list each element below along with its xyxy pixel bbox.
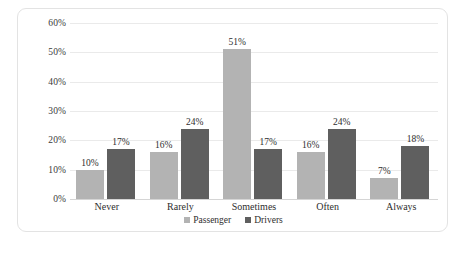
bar-drivers-never[interactable]: 17% (107, 149, 135, 199)
y-axis-tick-label: 30% (20, 106, 66, 116)
y-axis-tick-label: 40% (20, 77, 66, 87)
y-axis-tick-label: 50% (20, 47, 66, 57)
chart-legend: PassengerDrivers (18, 215, 449, 225)
bars-layer: 10%17%16%24%51%17%16%24%7%18% (70, 23, 438, 199)
legend-item-drivers[interactable]: Drivers (245, 215, 283, 225)
bar-passenger-often[interactable]: 16% (297, 152, 325, 199)
legend-swatch-icon (184, 217, 190, 223)
y-axis-tick-label: 20% (20, 135, 66, 145)
bar-value-label: 17% (112, 137, 129, 147)
bar-value-label: 24% (186, 117, 203, 127)
legend-label: Drivers (254, 215, 283, 225)
bar-value-label: 24% (333, 117, 350, 127)
chart-container: 0%10%20%30%40%50%60% 10%17%16%24%51%17%1… (17, 8, 448, 232)
bar-group: 16%24% (291, 23, 365, 199)
bar-passenger-always[interactable]: 7% (370, 178, 398, 199)
x-axis-tick-label-often: Often (316, 201, 339, 212)
bar-passenger-rarely[interactable]: 16% (150, 152, 178, 199)
bar-value-label: 7% (378, 166, 391, 176)
bar-group: 16%24% (144, 23, 218, 199)
y-axis-tick-label: 10% (20, 165, 66, 175)
bar-value-label: 16% (155, 140, 172, 150)
y-axis-tick-label: 0% (20, 194, 66, 204)
bar-drivers-always[interactable]: 18% (401, 146, 429, 199)
x-axis-tick-label-never: Never (95, 201, 119, 212)
legend-label: Passenger (193, 215, 231, 225)
bar-group: 7%18% (364, 23, 438, 199)
legend-swatch-icon (245, 217, 251, 223)
x-axis-tick-label-sometimes: Sometimes (232, 201, 276, 212)
bar-passenger-never[interactable]: 10% (76, 170, 104, 199)
bar-value-label: 51% (228, 37, 245, 47)
bar-group: 10%17% (70, 23, 144, 199)
bar-value-label: 17% (259, 137, 276, 147)
bar-value-label: 10% (81, 158, 98, 168)
bar-group: 51%17% (217, 23, 291, 199)
bar-value-label: 16% (302, 140, 319, 150)
bar-passenger-sometimes[interactable]: 51% (223, 49, 251, 199)
gridline-0% (70, 199, 438, 200)
bar-value-label: 18% (407, 134, 424, 144)
y-axis-tick-label: 60% (20, 18, 66, 28)
y-axis: 0%10%20%30%40%50%60% (18, 23, 66, 199)
bar-drivers-often[interactable]: 24% (328, 129, 356, 199)
x-axis-tick-label-rarely: Rarely (167, 201, 194, 212)
bar-drivers-rarely[interactable]: 24% (181, 129, 209, 199)
x-axis-tick-label-always: Always (386, 201, 417, 212)
bar-drivers-sometimes[interactable]: 17% (254, 149, 282, 199)
legend-item-passenger[interactable]: Passenger (184, 215, 231, 225)
